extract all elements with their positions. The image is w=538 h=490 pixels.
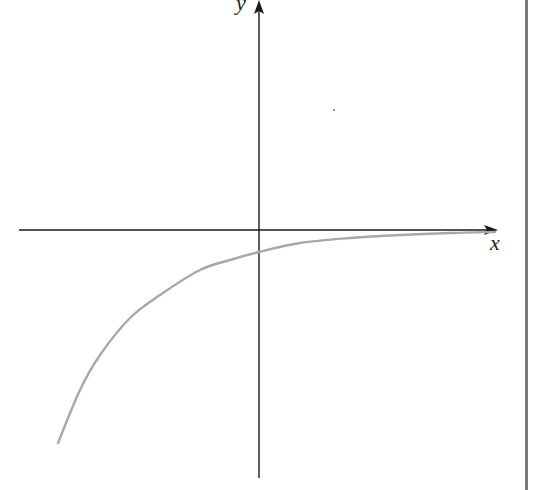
scan-speck	[333, 109, 335, 111]
y-axis-label: y	[236, 0, 246, 14]
coordinate-graph	[0, 0, 538, 490]
x-axis-label: x	[490, 232, 500, 254]
exponential-curve	[58, 232, 495, 443]
right-border-line	[525, 0, 528, 490]
